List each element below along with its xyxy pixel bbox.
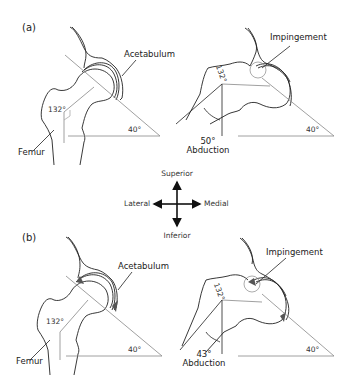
femur-label-b: Femur (16, 357, 43, 366)
compass-inferior: Inferior (157, 232, 197, 240)
neck-shaft-angle-a: 132° (48, 106, 66, 114)
orientation-compass (154, 182, 200, 226)
panel-b-neutral-hip (37, 237, 117, 375)
femur-label-a: Femur (18, 148, 45, 157)
compass-lateral: Lateral (124, 200, 150, 208)
neck-shaft-angle-b: 132° (46, 318, 64, 326)
panel-a-neutral-hip (41, 27, 123, 165)
panel-a-neutral-guides (64, 55, 160, 143)
acetabulum-label-b: Acetabulum (118, 262, 169, 271)
panel-b-abducted-impingement-fills (248, 278, 286, 322)
panel-b-neutral-guides (60, 276, 162, 360)
panel-a-abducted-hip (186, 28, 291, 124)
hip-diagram-canvas (0, 0, 352, 384)
compass-superior: Superior (157, 170, 197, 178)
compass-medial: Medial (204, 200, 229, 208)
acetabular-angle-b: 40° (128, 346, 141, 354)
impingement-label-b: Impingement (266, 248, 323, 257)
acetabular-angle-a-abducted: 40° (306, 126, 319, 134)
acetabular-angle-b-abducted: 40° (306, 346, 319, 354)
leader-lines (30, 46, 290, 360)
abduction-label-a: Abduction (180, 146, 236, 155)
panel-a-label: (a) (22, 22, 36, 33)
acetabular-angle-a: 40° (128, 126, 141, 134)
abduction-label-b: Abduction (176, 359, 232, 368)
panel-b-label: (b) (22, 232, 36, 243)
acetabulum-label-a: Acetabulum (124, 50, 175, 59)
impingement-label-a: Impingement (270, 33, 327, 42)
